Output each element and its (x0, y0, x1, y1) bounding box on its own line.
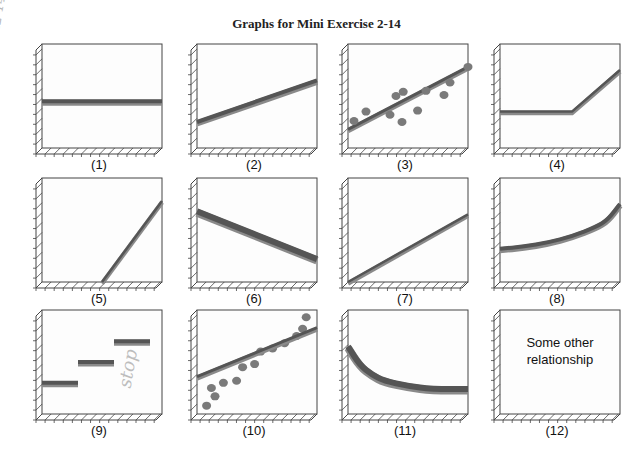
graph-panel-7 (334, 174, 478, 302)
other-relationship-text: Some otherrelationship (505, 334, 615, 368)
graph-panel-11 (334, 306, 478, 434)
graph-label-11: (11) (375, 423, 435, 438)
graph-1-plot (28, 40, 172, 168)
page-title: Graphs for Mini Exercise 2-14 (0, 16, 633, 32)
graph-label-1: (1) (69, 157, 129, 172)
other-text-line-1: Some other (505, 334, 615, 351)
graph-label-9: (9) (69, 423, 129, 438)
graph-label-7: (7) (375, 291, 435, 306)
graph-label-10: (10) (224, 423, 284, 438)
cropped-header-text (60, 0, 300, 4)
graph-label-8: (8) (527, 291, 587, 306)
graph-panel-4 (486, 40, 630, 168)
graph-3-plot (334, 40, 478, 168)
graph-5-plot (28, 174, 172, 302)
graph-11-plot (334, 306, 478, 434)
graph-panel-3 (334, 40, 478, 168)
graph-label-5: (5) (69, 291, 129, 306)
graph-7-plot (334, 174, 478, 302)
graph-panel-9: stop (28, 306, 172, 434)
graph-label-6: (6) (224, 291, 284, 306)
graph-panel-12: Some otherrelationship (486, 306, 630, 434)
graph-9-plot (28, 306, 172, 434)
graph-8-plot (486, 174, 630, 302)
graph-panel-10 (183, 306, 327, 434)
graph-panel-2 (183, 40, 327, 168)
graph-panel-8 (486, 174, 630, 302)
graph-panel-1 (28, 40, 172, 168)
graph-label-12: (12) (527, 423, 587, 438)
graph-panel-6 (183, 174, 327, 302)
graph-label-3: (3) (375, 157, 435, 172)
graph-4-plot (486, 40, 630, 168)
graph-label-4: (4) (527, 157, 587, 172)
graph-12-plot (486, 306, 630, 434)
other-text-line-2: relationship (505, 351, 615, 368)
graph-panel-5 (28, 174, 172, 302)
graph-2-plot (183, 40, 327, 168)
graph-6-plot (183, 174, 327, 302)
graph-10-plot (183, 306, 327, 434)
graph-label-2: (2) (224, 157, 284, 172)
